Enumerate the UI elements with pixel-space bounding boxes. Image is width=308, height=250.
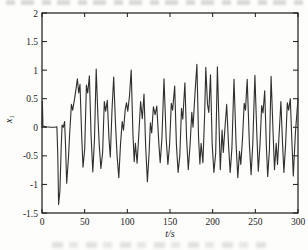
x-tick-label: 300 xyxy=(291,217,306,227)
x-tick-label: 0 xyxy=(40,217,45,227)
x-tick-label: 150 xyxy=(163,217,178,227)
y-tick-label: -1.5 xyxy=(23,209,38,219)
y-tick-label: 1.5 xyxy=(26,37,38,47)
x-tick-label: 50 xyxy=(80,217,90,227)
x-tick-label: 250 xyxy=(248,217,263,227)
scanned-figure-page: 05010015020025030021.510.50-0.5-1-1.5t/s… xyxy=(0,0,308,250)
y-tick-label: 0.5 xyxy=(26,94,38,104)
x-tick-label: 100 xyxy=(120,217,135,227)
figure-caption-faint xyxy=(52,242,266,248)
page-bleed-top-text xyxy=(6,0,304,5)
signal-line xyxy=(42,64,298,204)
x-axis-label: t/s xyxy=(165,228,175,239)
y-tick-label: 2 xyxy=(33,9,38,19)
y-tick-label: 1 xyxy=(33,66,38,76)
y-tick-label: -1 xyxy=(30,180,38,190)
time-series-figure: 05010015020025030021.510.50-0.5-1-1.5t/s… xyxy=(0,0,308,250)
y-tick-label: 0 xyxy=(33,123,38,133)
x-tick-label: 200 xyxy=(206,217,221,227)
y-axis-label: x1 xyxy=(3,115,16,124)
y-tick-label: -0.5 xyxy=(23,151,38,161)
